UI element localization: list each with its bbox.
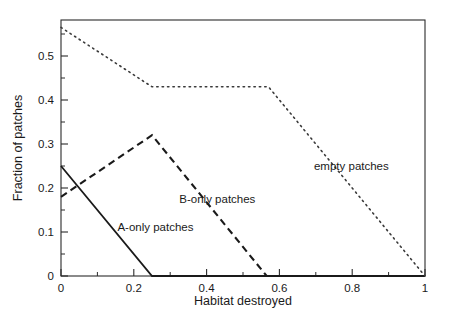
x-tick-label: 0.4 (199, 282, 216, 294)
y-tick-label: 0.1 (38, 226, 54, 238)
y-tick-label: 0.3 (38, 138, 54, 150)
series-line-b-only-patches (61, 135, 425, 276)
y-tick-label: 0 (48, 270, 54, 282)
x-axis-tick-labels: 00.20.40.60.81 (58, 282, 428, 294)
series-line-empty-patches (61, 27, 425, 276)
x-tick-label: 0.8 (344, 282, 360, 294)
x-tick-label: 0 (58, 282, 64, 294)
series-label-empty-patches: empty patches (314, 160, 389, 172)
series-label-a-only-patches: A-only patches (117, 221, 193, 233)
series-annotation-group: A-only patchesB-only patchesempty patche… (117, 160, 389, 232)
series-line-a-only-patches (61, 166, 425, 276)
x-axis-title: Habitat destroyed (194, 294, 292, 308)
y-axis-tick-labels: 00.10.20.30.40.5 (38, 50, 55, 282)
chart-figure: 00.20.40.60.81 00.10.20.30.40.5 A-only p… (0, 0, 449, 321)
y-axis-title: Fraction of patches (11, 95, 25, 201)
y-tick-label: 0.4 (38, 94, 55, 106)
line-chart-canvas: 00.20.40.60.81 00.10.20.30.40.5 A-only p… (0, 0, 449, 321)
x-tick-label: 0.2 (126, 282, 142, 294)
x-tick-label: 1 (422, 282, 428, 294)
x-tick-label: 0.6 (271, 282, 287, 294)
data-series-group (61, 27, 425, 276)
y-tick-label: 0.5 (38, 50, 54, 62)
y-tick-label: 0.2 (38, 182, 54, 194)
series-label-b-only-patches: B-only patches (179, 193, 255, 205)
plot-frame (61, 20, 425, 276)
